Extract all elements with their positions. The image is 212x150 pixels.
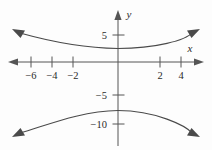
y-tick-label-pos5: 5 bbox=[102, 30, 107, 41]
x-axis bbox=[8, 58, 204, 65]
lower-branch-arrow-right-icon bbox=[187, 128, 200, 137]
hyperbola-graph-figure: −6 −4 −2 2 4 5 −5 −10 x y bbox=[0, 0, 212, 150]
y-axis-label: y bbox=[126, 8, 132, 20]
lower-branch-arrow-left-icon bbox=[12, 128, 25, 137]
x-tick-label-pos4: 4 bbox=[178, 70, 184, 81]
y-axis-arrow-up-icon bbox=[114, 10, 121, 20]
x-tick-label-neg4: −4 bbox=[46, 70, 58, 81]
x-tick-label-neg6: −6 bbox=[25, 70, 36, 81]
x-axis-arrow-right-icon bbox=[194, 58, 204, 65]
x-axis-arrow-left-icon bbox=[8, 58, 18, 65]
x-tick-label-neg2: −2 bbox=[67, 70, 78, 81]
coordinate-plane: −6 −4 −2 2 4 5 −5 −10 x y bbox=[0, 0, 212, 150]
y-tick-label-neg10: −10 bbox=[91, 119, 107, 130]
upper-branch-arrow-right-icon bbox=[187, 29, 200, 38]
x-tick-label-pos2: 2 bbox=[157, 70, 162, 81]
x-axis-label: x bbox=[187, 42, 193, 54]
y-axis bbox=[114, 10, 121, 146]
upper-branch-arrow-left-icon bbox=[12, 29, 25, 38]
y-tick-label-neg5: −5 bbox=[96, 90, 107, 101]
